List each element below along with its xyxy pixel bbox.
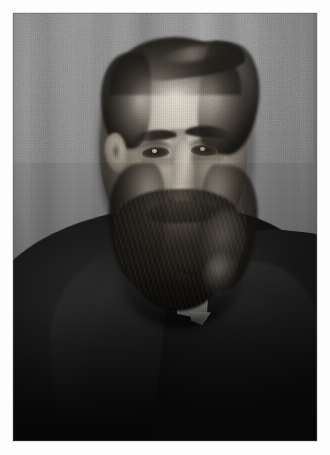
shoulder-shadow (13, 313, 317, 441)
photo-page (0, 0, 330, 455)
photo-caption (13, 443, 317, 453)
eye-highlight-left (152, 149, 157, 153)
ear-inner (111, 141, 121, 161)
portrait-photograph (13, 13, 317, 441)
